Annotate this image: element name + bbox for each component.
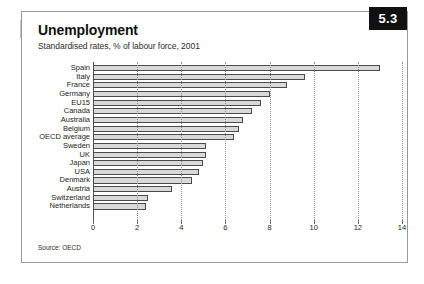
x-tick-label-12: 12 — [354, 223, 362, 232]
bar — [93, 186, 172, 192]
bar-row: Belgium — [93, 125, 402, 134]
x-tick-label-6: 6 — [223, 223, 227, 232]
x-tick-label-10: 10 — [310, 223, 318, 232]
bar-row: UK — [93, 151, 402, 160]
bar-row: Spain — [93, 64, 402, 73]
page-title: Unemployment — [38, 22, 138, 38]
category-label: Spain — [0, 64, 90, 72]
bar-row: Japan — [93, 159, 402, 168]
bar-row: Australia — [93, 116, 402, 125]
bar — [93, 117, 243, 123]
x-tick-label-8: 8 — [267, 223, 271, 232]
source-note: Source: OECD — [38, 244, 81, 251]
bar — [93, 152, 206, 158]
bar — [93, 169, 199, 175]
category-label: Sweden — [0, 142, 90, 150]
bar-row: USA — [93, 168, 402, 177]
plot-area: SpainItalyFranceGermanyEU15CanadaAustral… — [93, 62, 402, 220]
category-label: Netherlands — [0, 202, 90, 210]
gridline-4 — [181, 62, 182, 220]
bar-row: Denmark — [93, 176, 402, 185]
gridline-12 — [358, 62, 359, 220]
x-tick-label-2: 2 — [135, 223, 139, 232]
x-tick-label-14: 14 — [398, 223, 406, 232]
bar-row: EU15 — [93, 99, 402, 108]
bar — [93, 160, 203, 166]
bar — [93, 108, 252, 114]
bar — [93, 195, 148, 201]
bar — [93, 82, 287, 88]
chart-card: 5.3 Unemployment Standardised rates, % o… — [21, 11, 408, 263]
bar — [93, 134, 234, 140]
bar — [93, 126, 239, 132]
gridline-14 — [402, 62, 403, 220]
bar-row: OECD average — [93, 133, 402, 142]
bar-row: Germany — [93, 90, 402, 99]
bar — [93, 74, 305, 80]
x-tick-label-4: 4 — [179, 223, 183, 232]
bar — [93, 100, 261, 106]
bar — [93, 143, 206, 149]
bar-row: Netherlands — [93, 202, 402, 211]
bar-row: Canada — [93, 107, 402, 116]
bar-row: Italy — [93, 73, 402, 82]
gridline-6 — [225, 62, 226, 220]
gridline-2 — [137, 62, 138, 220]
bar — [93, 177, 192, 183]
x-tick-label-0: 0 — [91, 223, 95, 232]
bar-row: France — [93, 81, 402, 90]
gridline-10 — [314, 62, 315, 220]
category-label: Germany — [0, 90, 90, 98]
bar-row: Switzerland — [93, 194, 402, 203]
bar-row: Austria — [93, 185, 402, 194]
page-subtitle: Standardised rates, % of labour force, 2… — [38, 41, 200, 51]
category-label: Australia — [0, 116, 90, 124]
bar — [93, 65, 380, 71]
chapter-badge: 5.3 — [369, 7, 407, 30]
chart-page: 5.3 Unemployment Standardised rates, % o… — [0, 0, 424, 284]
bar-rows: SpainItalyFranceGermanyEU15CanadaAustral… — [93, 62, 402, 220]
gridline-8 — [270, 62, 271, 220]
bar-row: Sweden — [93, 142, 402, 151]
